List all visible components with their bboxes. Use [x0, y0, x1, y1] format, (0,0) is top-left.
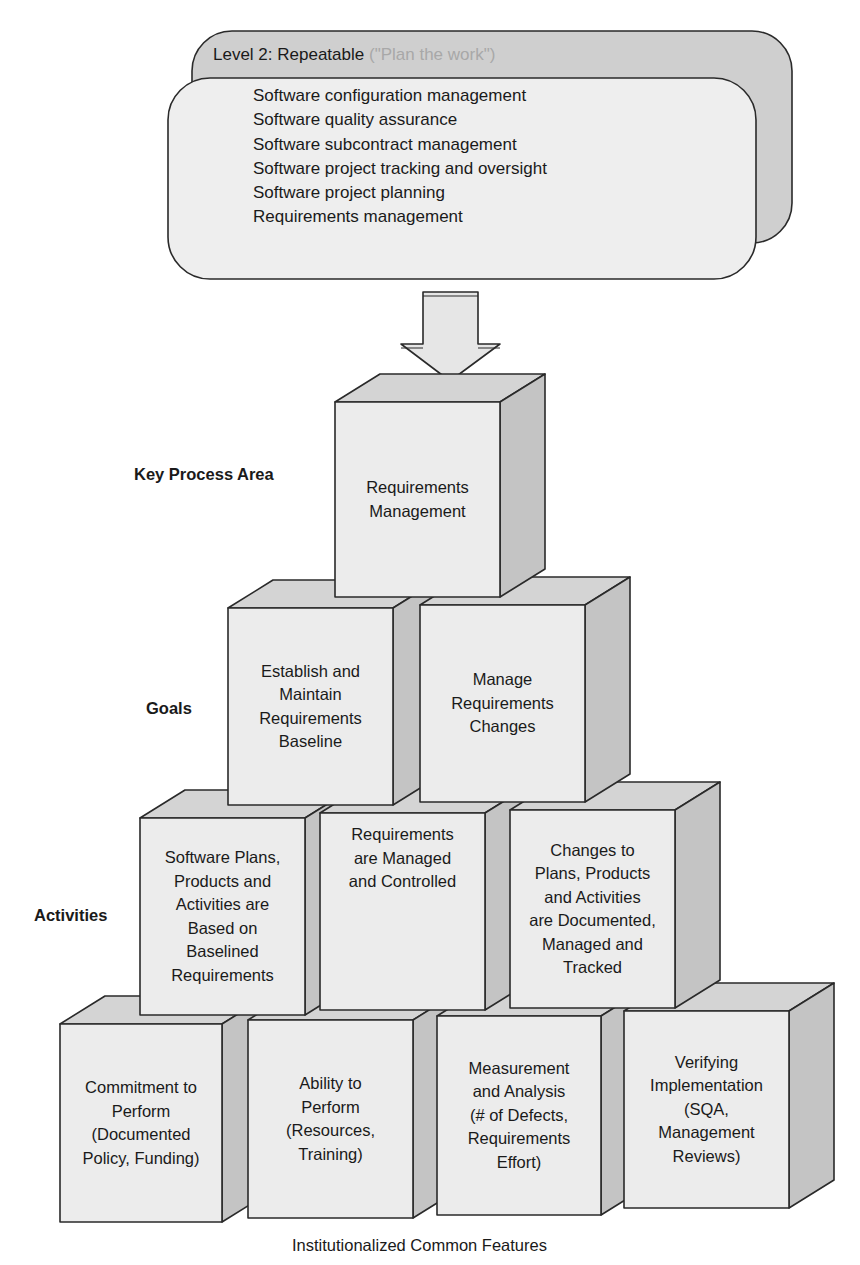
cube-label-line: Requirements — [171, 964, 274, 988]
cube-label-line: Reviews) — [673, 1145, 741, 1169]
caption-common-features: Institutionalized Common Features — [292, 1236, 547, 1255]
level-title: Level 2: Repeatable ("Plan the work") — [213, 45, 495, 65]
cube-label-line: are Documented, — [529, 909, 656, 933]
cube-label-line: and Activities — [544, 886, 640, 910]
cube-ability-to-perform-label: Ability toPerform(Resources,Training) — [248, 1020, 413, 1218]
cube-activity-changes-documented-label: Changes toPlans, Productsand Activitiesa… — [510, 810, 675, 1008]
cube-label-line: Plans, Products — [535, 862, 651, 886]
cube-label-line: Baseline — [279, 730, 342, 754]
row-label-goals: Goals — [146, 699, 192, 718]
cube-goal-establish-baseline-label: Establish andMaintainRequirementsBaselin… — [228, 608, 393, 805]
down-arrow-icon — [401, 292, 500, 381]
cube-label-line: Maintain — [279, 683, 341, 707]
cube-label-line: Changes — [469, 715, 535, 739]
kpa-list-item: Software project tracking and oversight — [253, 157, 547, 181]
cube-label-line: are Managed — [354, 847, 451, 871]
cube-label-line: Establish and — [261, 660, 360, 684]
cube-label-line: Verifying — [675, 1051, 738, 1075]
kpa-list-item: Requirements management — [253, 205, 547, 229]
cube-label-line: (Documented — [91, 1123, 190, 1147]
cube-label-line: Tracked — [563, 956, 622, 980]
cube-label-line: Requirements — [259, 707, 362, 731]
cube-label-line: Measurement — [469, 1057, 570, 1081]
cube-label-line: Requirements — [366, 476, 469, 500]
cube-label-line: Management — [658, 1121, 754, 1145]
cube-measurement-analysis-label: Measurementand Analysis(# of Defects,Req… — [437, 1016, 601, 1215]
cube-activity-managed-controlled-label: Requirementsare Managedand Controlled — [320, 823, 485, 1010]
cube-label-line: Requirements — [351, 823, 454, 847]
cube-label-line: Requirements — [468, 1127, 571, 1151]
cube-activity-plans-based-label: Software Plans,Products andActivities ar… — [140, 818, 305, 1015]
cube-key-process-area-label: RequirementsManagement — [335, 402, 500, 597]
cube-label-line: Products and — [174, 870, 271, 894]
kpa-list-item: Software subcontract management — [253, 133, 547, 157]
cube-label-line: and Analysis — [473, 1080, 566, 1104]
kpa-list-item: Software quality assurance — [253, 108, 547, 132]
key-process-area-list: Software configuration management Softwa… — [253, 84, 547, 230]
cube-label-line: Management — [369, 500, 465, 524]
cube-label-line: Changes to — [550, 839, 634, 863]
cube-side-face — [500, 374, 545, 597]
cube-label-line: Implementation — [650, 1074, 763, 1098]
cube-label-line: Ability to — [299, 1072, 361, 1096]
row-label-key-process-area: Key Process Area — [134, 465, 274, 484]
level-title-subtitle: ("Plan the work") — [369, 45, 495, 64]
kpa-list-item: Software project planning — [253, 181, 547, 205]
cube-side-face — [789, 983, 834, 1208]
cube-label-line: Requirements — [451, 692, 554, 716]
cube-side-face — [675, 782, 720, 1008]
cube-label-line: Policy, Funding) — [82, 1147, 199, 1171]
cube-label-line: Manage — [473, 668, 533, 692]
cube-label-line: Managed and — [542, 933, 643, 957]
cube-label-line: and Controlled — [349, 870, 456, 894]
row-label-activities: Activities — [34, 906, 107, 925]
cube-label-line: (SQA, — [684, 1098, 729, 1122]
cube-side-face — [585, 577, 630, 802]
cube-commitment-to-perform-label: Commitment toPerform(DocumentedPolicy, F… — [60, 1024, 222, 1222]
cube-goal-manage-changes-label: ManageRequirementsChanges — [420, 605, 585, 802]
cube-label-line: Training) — [298, 1143, 363, 1167]
level-title-main: Level 2: Repeatable — [213, 45, 364, 64]
cube-label-line: Effort) — [497, 1151, 542, 1175]
cube-label-line: Based on — [188, 917, 258, 941]
cube-label-line: Activities are — [176, 893, 270, 917]
cube-label-line: Commitment to — [85, 1076, 197, 1100]
cube-label-line: Software Plans, — [165, 846, 281, 870]
cube-label-line: Perform — [112, 1100, 171, 1124]
cube-label-line: (Resources, — [286, 1119, 375, 1143]
cube-verifying-implementation-label: VerifyingImplementation(SQA,ManagementRe… — [624, 1011, 789, 1208]
cube-label-line: Baselined — [186, 940, 258, 964]
kpa-list-item: Software configuration management — [253, 84, 547, 108]
cube-label-line: Perform — [301, 1096, 360, 1120]
cube-label-line: (# of Defects, — [470, 1104, 568, 1128]
